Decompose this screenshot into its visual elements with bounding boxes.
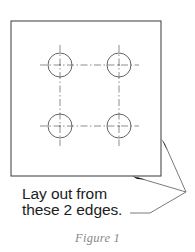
leader-line-to-right-edge xyxy=(165,144,187,193)
hole-center-dot-bottom-right xyxy=(118,125,120,127)
arrowhead-group xyxy=(133,139,168,180)
hole-center-dot-bottom-left xyxy=(59,125,61,127)
annotation-callout: Lay out from these 2 edges. xyxy=(22,186,152,218)
hole-center-dot-top-right xyxy=(118,64,120,66)
figure-caption-label: Figure xyxy=(75,231,110,245)
hole-center-dot-top-left xyxy=(59,64,61,66)
figure-container: Lay out from these 2 edges. Figure1 xyxy=(0,0,195,252)
figure-caption: Figure1 xyxy=(0,231,195,246)
workpiece-plate-outline xyxy=(11,21,161,176)
annotation-line-1: Lay out from xyxy=(22,186,152,202)
arrowhead-right-edge xyxy=(162,139,168,151)
hole-group xyxy=(48,53,131,138)
annotation-line-2: these 2 edges. xyxy=(22,202,152,218)
figure-caption-number: 1 xyxy=(113,231,120,245)
centerline-group xyxy=(40,45,139,146)
leader-line-to-text xyxy=(150,192,186,213)
